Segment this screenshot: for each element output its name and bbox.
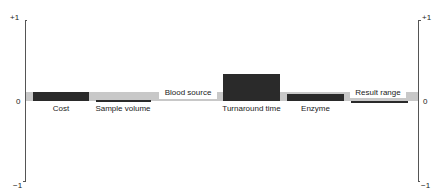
label-sample-volume: Sample volume bbox=[90, 104, 156, 113]
right-axis-label-zero: 0 bbox=[423, 97, 427, 106]
bar-cost bbox=[33, 92, 89, 101]
bar-turnaround-time bbox=[223, 74, 280, 101]
left-axis-label-zero: 0 bbox=[16, 97, 20, 106]
label-blood-source: Blood source bbox=[159, 87, 217, 99]
right-axis-label-minus1: −1 bbox=[421, 181, 430, 190]
right-axis bbox=[418, 20, 419, 182]
left-axis bbox=[25, 20, 26, 182]
right-axis-tick-top bbox=[418, 20, 421, 21]
left-axis-label-plus1: +1 bbox=[10, 13, 19, 22]
bar-sample-volume bbox=[96, 100, 151, 102]
label-enzyme: Enzyme bbox=[287, 104, 344, 113]
label-cost: Cost bbox=[33, 104, 89, 113]
label-result-range: Result range bbox=[350, 87, 406, 98]
left-axis-tick-bottom bbox=[23, 181, 25, 182]
left-axis-tick-top bbox=[25, 20, 27, 21]
right-axis-label-plus1: +1 bbox=[422, 13, 431, 22]
bar-chart: +1 0 −1 +1 0 −1 Cost Sample volume Blood… bbox=[0, 0, 444, 196]
left-axis-label-minus1: −1 bbox=[13, 181, 22, 190]
bar-result-range bbox=[351, 101, 408, 103]
bar-enzyme bbox=[287, 94, 344, 101]
right-axis-tick-bottom bbox=[418, 181, 420, 182]
label-turnaround-time: Turnaround time bbox=[218, 104, 285, 113]
